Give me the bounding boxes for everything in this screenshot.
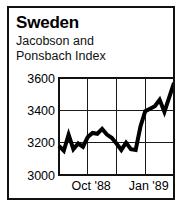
x-axis-tick-labels: Oct '88Jan '89 xyxy=(72,179,169,193)
y-axis-tick-label: 3400 xyxy=(27,104,55,118)
y-axis-tick-labels: 3600340032003000 xyxy=(27,72,55,183)
x-axis-tick-label: Jan '89 xyxy=(129,179,169,193)
chart-figure: Sweden Jacobson and Ponsbach Index 36003… xyxy=(7,6,175,200)
line-chart-svg: 3600340032003000 Oct '88Jan '89 xyxy=(9,8,175,200)
y-axis-tick-label: 3000 xyxy=(27,169,55,183)
plot-area: 3600340032003000 Oct '88Jan '89 xyxy=(9,8,175,200)
y-axis-tick-label: 3600 xyxy=(27,72,55,86)
y-axis-tick-label: 3200 xyxy=(27,136,55,150)
x-axis-tick-label: Oct '88 xyxy=(72,179,111,193)
